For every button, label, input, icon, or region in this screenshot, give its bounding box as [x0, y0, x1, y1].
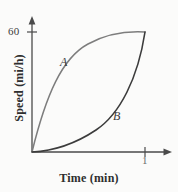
speed-vs-time-figure: 60 1 A B Speed (mi/h) Time (min) [0, 0, 178, 192]
x-axis-tick-label-1: 1 [142, 155, 148, 166]
chart-plot-area [0, 0, 178, 192]
curve-b-label: B [113, 110, 120, 122]
curve-b-path [32, 32, 145, 152]
x-axis-arrowhead [164, 149, 173, 156]
y-axis-title: Speed (mi/h) [13, 33, 25, 143]
y-axis-arrowhead [29, 16, 36, 25]
curve-a-label: A [60, 56, 67, 68]
x-axis-title: Time (min) [0, 172, 178, 184]
